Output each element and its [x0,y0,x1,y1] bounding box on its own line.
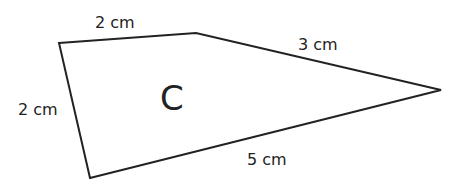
label-bottom-side: 5 cm [247,150,287,169]
label-top-side: 2 cm [95,13,135,32]
label-upper-right-side: 3 cm [298,35,338,54]
shape-label: C [160,78,184,118]
diagram: 2 cm 3 cm 2 cm 5 cm C [0,0,451,192]
label-left-side: 2 cm [18,100,58,119]
